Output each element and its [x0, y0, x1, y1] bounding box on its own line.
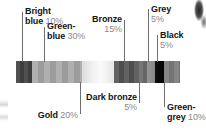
strip-segment-bright-blue [16, 61, 32, 83]
leader-line-green-blue [44, 27, 45, 62]
callout-green-grey-name: Green- [167, 102, 195, 112]
leader-line-gold [80, 82, 81, 114]
callout-dark-bronze-name: Dark bronze [86, 92, 137, 102]
leader-line-dark-bronze [139, 82, 140, 103]
strip-segment-black [155, 61, 163, 83]
leader-line-bronze [124, 20, 125, 62]
strip-segment-grey [147, 61, 155, 83]
callout-gold-name: Gold [38, 110, 58, 120]
callout-bronze-name: Bronze [92, 14, 122, 24]
callout-grey: Grey 5% [151, 4, 171, 24]
callout-bronze: Bronze 15% [88, 14, 122, 34]
leader-line-green-grey [164, 82, 165, 107]
callout-dark-bronze-line2: 5% [86, 102, 137, 112]
strip-segment-dark-bronze [139, 61, 147, 83]
callout-green-blue-line1: Green- [47, 21, 85, 31]
leader-line-bright-blue [22, 12, 23, 62]
callout-bronze-line1: Bronze [88, 14, 122, 24]
callout-green-blue-name2: blue [47, 31, 65, 41]
callout-black-line2: 5% [160, 40, 184, 50]
callout-grey-name: Grey [151, 4, 171, 14]
strip-segment-gold [82, 61, 115, 83]
callout-grey-line1: Grey [151, 4, 171, 14]
callout-bright-blue-name2: blue [25, 16, 43, 26]
callout-green-grey-name2: grey [167, 112, 186, 122]
callout-dark-bronze: Dark bronze 5% [86, 92, 137, 112]
strip-segment-green-blue [32, 61, 81, 83]
strip-segment-green-grey [164, 61, 180, 83]
callout-black-name: Black [160, 30, 184, 40]
callout-green-blue-line2: blue 30% [47, 31, 85, 41]
strip-segment-bronze [114, 61, 139, 83]
callout-gold-line1: Gold 20% [24, 110, 78, 120]
callout-bronze-pct: 15% [104, 24, 122, 34]
leader-line-black [157, 35, 158, 62]
callout-green-blue: Green- blue 30% [47, 21, 85, 41]
callout-green-grey-line1: Green- [167, 102, 206, 112]
callout-green-grey-pct: 10% [188, 112, 206, 122]
callout-black-pct: 5% [160, 40, 173, 50]
callout-green-blue-pct: 30% [68, 31, 86, 41]
callout-bronze-line2: 15% [88, 24, 122, 34]
callout-green-grey-line2: grey 10% [167, 112, 206, 122]
scan-artifact-left-edge [0, 100, 8, 126]
callout-bright-blue-name: Bright [25, 6, 51, 16]
callout-green-grey: Green- grey 10% [167, 102, 206, 122]
callout-grey-line2: 5% [151, 14, 171, 24]
callout-green-blue-name: Green- [47, 21, 75, 31]
callout-dark-bronze-line1: Dark bronze [86, 92, 137, 102]
callout-gold-pct: 20% [60, 110, 78, 120]
callout-gold: Gold 20% [24, 110, 78, 120]
leader-line-grey [148, 9, 149, 62]
callout-grey-pct: 5% [151, 14, 164, 24]
callout-dark-bronze-pct: 5% [124, 102, 137, 112]
callout-bright-blue-line1: Bright [25, 6, 63, 16]
callout-black-line1: Black [160, 30, 184, 40]
callout-black: Black 5% [160, 30, 184, 50]
colour-composition-strip [16, 61, 180, 83]
colour-composition-figure: Bright blue 10% Green- blue 30% Bronze 1… [0, 0, 206, 131]
